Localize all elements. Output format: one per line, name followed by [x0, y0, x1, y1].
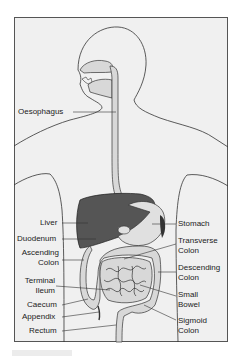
label-appendix: Appendix	[22, 312, 55, 322]
label-caecum: Caecum	[27, 300, 57, 310]
small-bowel-shape	[100, 258, 152, 303]
label-duodenum: Duodenum	[17, 234, 56, 244]
label-transverse-colon: TransverseColon	[178, 236, 218, 256]
label-sigmoid-colon: SigmoidColon	[178, 316, 207, 336]
label-oesophagus: Oesophagus	[18, 107, 63, 117]
teeth-icon	[82, 77, 92, 84]
label-liver: Liver	[40, 218, 57, 228]
oesophagus-tube	[110, 66, 122, 197]
label-descending-colon: DescendingColon	[178, 263, 220, 283]
gallbladder-shape	[118, 226, 130, 234]
label-stomach: Stomach	[178, 219, 210, 229]
label-ascending-colon: AscendingColon	[19, 248, 59, 268]
label-small-bowel: SmallBowel	[178, 290, 200, 310]
label-rectum: Rectum	[29, 326, 57, 336]
label-terminal-ileum: TerminalIleum	[19, 276, 55, 296]
appendix-shape	[98, 306, 100, 320]
nasal-cavity	[80, 60, 113, 73]
figure-caption-cutoff	[12, 350, 72, 356]
